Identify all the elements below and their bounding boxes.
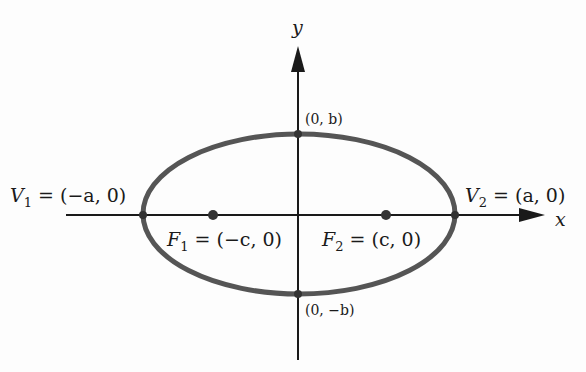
covertex-top-point xyxy=(294,130,302,138)
x-axis-arrow-icon xyxy=(519,208,545,222)
v2-label: V2 = (a, 0) xyxy=(465,184,565,210)
y-axis-arrow-icon xyxy=(291,46,305,72)
ellipse-diagram: y x V1 = (−a, 0) V2 = (a, 0) F1 = (−c, 0… xyxy=(0,0,586,372)
vertex-v1-point xyxy=(139,211,147,219)
top-covertex-label: (0, b) xyxy=(305,111,343,127)
focus-f2-point xyxy=(381,210,391,220)
vertex-v2-point xyxy=(451,211,459,219)
y-axis-label: y xyxy=(291,16,303,38)
covertex-bottom-point xyxy=(294,290,302,298)
focus-f1-point xyxy=(208,210,218,220)
x-axis-label: x xyxy=(555,208,566,230)
bottom-covertex-label: (0, −b) xyxy=(305,302,354,318)
v1-label: V1 = (−a, 0) xyxy=(10,184,126,210)
f2-label: F2 = (c, 0) xyxy=(321,228,421,254)
f1-label: F1 = (−c, 0) xyxy=(166,228,282,254)
